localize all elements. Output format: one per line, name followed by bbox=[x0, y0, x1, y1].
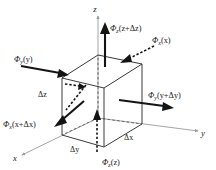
flux-arrow-x-back bbox=[120, 46, 154, 63]
flux-label-z-top: Φz(z+Δz) bbox=[110, 24, 142, 34]
figure-root: z y x Φz(z+Δz) Φx(x) Φy(y) Φy(y+Δy) Φx(x… bbox=[0, 0, 216, 170]
flux-arrow-y-right-head bbox=[162, 102, 174, 111]
flux-label-y-right: Φy(y+Δy) bbox=[148, 91, 181, 101]
flux-label-x-back: Φx(x) bbox=[152, 36, 171, 46]
dimension-label-dx: Δx bbox=[124, 133, 133, 142]
flux-label-y-left-arg: (y) bbox=[23, 55, 33, 64]
dimension-labels: Δz Δy Δx bbox=[38, 90, 133, 154]
flux-label-x-front: Φx(x+Δx) bbox=[3, 120, 36, 130]
flux-label-z-bottom: Φz(z) bbox=[102, 158, 120, 168]
flux-arrow-z-top bbox=[100, 22, 110, 67]
dimension-label-dy: Δy bbox=[70, 145, 79, 154]
cube-edge-bottom-front-right bbox=[104, 124, 142, 147]
flux-arrow-x-front bbox=[54, 85, 86, 127]
flux-arrow-z-bottom-head bbox=[93, 109, 101, 120]
flux-arrow-z-top-head bbox=[100, 22, 110, 34]
flux-arrow-y-left bbox=[21, 66, 86, 90]
flux-label-y-right-arg: (y+Δy) bbox=[157, 91, 181, 100]
flux-arrow-x-front-shaft bbox=[62, 101, 84, 120]
flux-label-x-back-arg: (x) bbox=[161, 36, 171, 45]
flux-label-x-front-arg: (x+Δx) bbox=[12, 120, 36, 129]
flux-label-y-left: Φy(y) bbox=[14, 55, 33, 65]
axis-label-z: z bbox=[92, 4, 97, 14]
axis-labels: z y x bbox=[12, 4, 205, 163]
axes-group bbox=[22, 16, 198, 155]
flux-label-z-top-arg: (z+Δz) bbox=[119, 24, 142, 33]
flux-cube-diagram: z y x Φz(z+Δz) Φx(x) Φy(y) Φy(y+Δy) Φx(x… bbox=[0, 0, 216, 170]
flux-arrow-x-front-inner bbox=[66, 85, 86, 110]
flux-arrow-y-left-shaft bbox=[21, 66, 60, 73]
dimension-label-dz: Δz bbox=[38, 90, 47, 99]
cube-edge-bottom-back-left bbox=[62, 118, 98, 135]
axis-label-y: y bbox=[200, 128, 205, 138]
flux-arrow-y-left-head bbox=[57, 69, 69, 78]
flux-arrow-x-back-shaft bbox=[128, 46, 154, 59]
flux-arrow-y-right bbox=[119, 100, 174, 111]
flux-arrow-y-left-inner-shaft bbox=[65, 84, 80, 86]
flux-label-z-bottom-arg: (z) bbox=[111, 158, 120, 167]
axis-label-x: x bbox=[12, 153, 17, 163]
flux-arrow-x-back-head bbox=[120, 54, 132, 63]
cube-hidden-edges bbox=[62, 55, 142, 135]
